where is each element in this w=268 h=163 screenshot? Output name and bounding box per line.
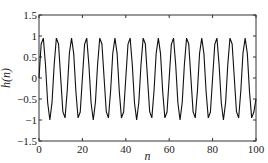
y-tick-label: −1.5 — [17, 135, 37, 147]
series-line-h-n — [39, 38, 256, 120]
y-tick-label: 1 — [32, 30, 38, 42]
x-tick-label: 40 — [120, 143, 132, 155]
y-axis-label: h(n) — [0, 68, 13, 88]
x-tick-label: 0 — [36, 143, 42, 155]
series-layer — [39, 38, 256, 120]
x-tick-label: 20 — [77, 143, 89, 155]
y-tick-label: −0.5 — [17, 93, 37, 105]
y-tick-label: −1 — [25, 114, 37, 126]
y-tick-label: 0 — [32, 72, 38, 84]
x-tick-label: 60 — [164, 143, 176, 155]
x-tick-label: 100 — [248, 143, 265, 155]
x-axis: 020406080100 — [36, 15, 265, 155]
x-tick-label: 80 — [207, 143, 219, 155]
x-axis-label: n — [145, 149, 151, 163]
y-tick-label: 1.5 — [23, 9, 37, 21]
y-tick-label: 0.5 — [23, 51, 37, 63]
line-chart: 020406080100 −1.5−1−0.500.511.5 n h(n) — [0, 0, 268, 163]
